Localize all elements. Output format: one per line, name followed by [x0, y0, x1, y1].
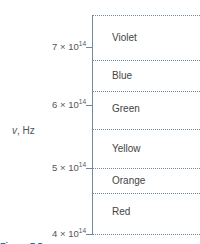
tick-6e14: [86, 105, 92, 106]
band-label-yellow: Yellow: [112, 143, 141, 154]
tick-4e14: [86, 234, 92, 235]
band-label-green: Green: [112, 103, 140, 114]
figure-caption: Figure 7.5: [0, 239, 43, 244]
tick-label-7e14: 7 × 1014: [52, 41, 86, 52]
band-label-orange: Orange: [112, 175, 145, 186]
band-boundary-green-yellow: [93, 129, 200, 130]
band-boundary-yellow-orange: [93, 168, 200, 169]
band-label-violet: Violet: [112, 32, 137, 43]
band-boundary-top: [93, 15, 200, 16]
tick-7e14: [86, 47, 92, 48]
tick-label-6e14: 6 × 1014: [52, 99, 86, 110]
band-boundary-violet-blue: [93, 60, 200, 61]
band-boundary-blue-green: [93, 91, 200, 92]
band-label-red: Red: [112, 206, 130, 217]
band-boundary-bottom: [93, 234, 200, 235]
frequency-axis: [92, 15, 93, 235]
y-axis-label: v, Hz: [12, 125, 35, 136]
band-label-blue: Blue: [112, 70, 132, 81]
band-boundary-orange-red: [93, 193, 200, 194]
tick-5e14: [86, 168, 92, 169]
tick-label-5e14: 5 × 1014: [52, 162, 86, 173]
tick-label-4e14: 4 × 1014: [52, 228, 86, 239]
